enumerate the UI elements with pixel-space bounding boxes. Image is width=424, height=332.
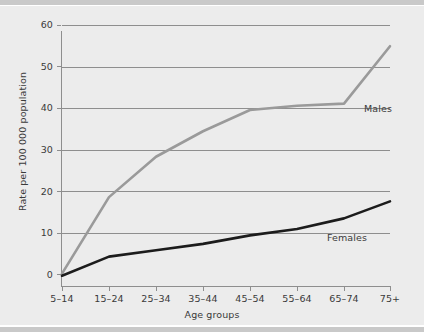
series-label-males: Males <box>364 103 392 114</box>
top-border-band <box>0 0 424 5</box>
chart-screenshot: 60 50 40 30 20 10 0 <box>0 0 424 332</box>
series-lines <box>0 6 424 332</box>
chart-panel: 60 50 40 30 20 10 0 <box>0 6 424 325</box>
series-label-females: Females <box>327 232 367 243</box>
